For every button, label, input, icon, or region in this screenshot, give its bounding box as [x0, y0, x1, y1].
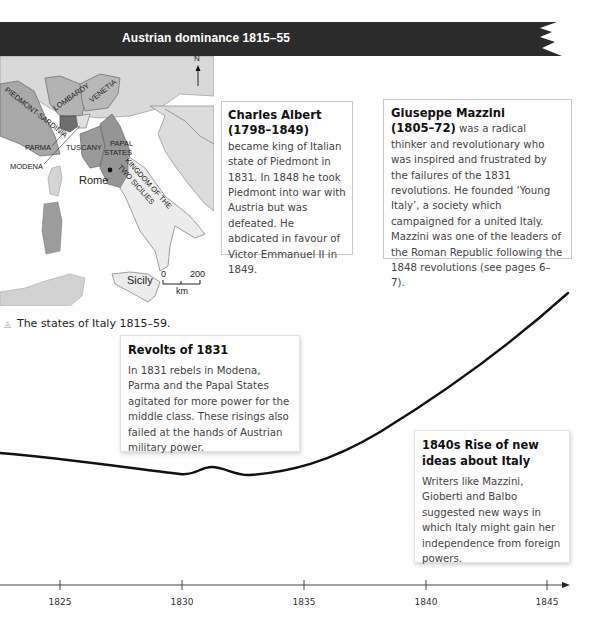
italy-map: N PIEDMONT-SARDINIA LOMBARDY VENETIA PAR… [0, 56, 214, 306]
mazzini-name-line1: Giuseppe Mazzini [391, 106, 505, 120]
tick-label-1845: 1845 [536, 597, 559, 607]
charles-albert-box: Charles Albert (1798–1849) became king o… [221, 101, 353, 255]
mazzini-name-line2: (1805–72) [391, 121, 456, 135]
revolts-title: Revolts of 1831 [128, 342, 292, 358]
caption-triangle-icon: ◬ [4, 319, 11, 329]
scale-unit-label: km [176, 287, 188, 296]
map-caption: ◬The states of Italy 1815–59. [4, 317, 170, 330]
tick-label-1830: 1830 [171, 597, 194, 607]
ideas-title: 1840s Rise of new ideas about Italy [422, 437, 562, 469]
tick-label-1840: 1840 [415, 597, 438, 607]
map-label-papal-states-1: PAPAL [110, 140, 133, 148]
section-banner: Austrian dominance 1815–55 [0, 22, 580, 56]
map-label-tuscany: TUSCANY [66, 144, 102, 152]
map-label-modena: MODENA [10, 163, 43, 171]
charles-albert-text: became king of Italian state of Piedmont… [228, 141, 346, 275]
scale-end-label: 200 [190, 270, 205, 279]
ideas-1840s-box: 1840s Rise of new ideas about Italy Writ… [414, 430, 570, 563]
charles-albert-name-line1: Charles Albert [228, 108, 321, 122]
banner-title: Austrian dominance 1815–55 [122, 31, 290, 45]
timeline-axis: 1825 1830 1835 1840 1845 [0, 575, 604, 615]
scale-start-label: 0 [161, 270, 166, 279]
map-label-rome: Rome [79, 175, 108, 186]
tick-label-1825: 1825 [49, 597, 72, 607]
revolts-1831-box: Revolts of 1831 In 1831 rebels in Modena… [120, 335, 300, 452]
mazzini-box: Giuseppe Mazzini (1805–72) was a radical… [383, 99, 572, 259]
map-label-papal-states-2: STATES [104, 149, 132, 157]
map-label-sicily: Sicily [127, 275, 153, 286]
ideas-text: Writers like Mazzini, Gioberti and Balbo… [422, 474, 562, 566]
compass-north-label: N [194, 55, 200, 63]
tick-label-1835: 1835 [293, 597, 316, 607]
map-caption-text: The states of Italy 1815–59. [17, 317, 171, 330]
mazzini-text: was a radical thinker and revolutionary … [391, 123, 562, 288]
revolts-text: In 1831 rebels in Modena, Parma and the … [128, 363, 292, 455]
map-label-parma: PARMA [25, 144, 51, 152]
charles-albert-name-line2: (1798–1849) [228, 123, 309, 137]
